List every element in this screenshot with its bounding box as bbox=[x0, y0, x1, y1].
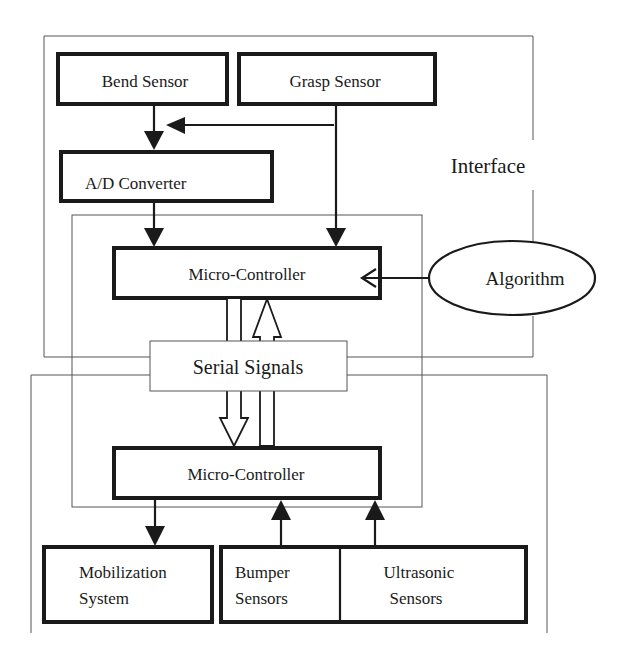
arrowhead-left-icon bbox=[166, 117, 185, 134]
mobilization-label-line1: Mobilization bbox=[79, 563, 167, 582]
bumper-label-line1: Bumper bbox=[235, 563, 290, 582]
sensor-group-box bbox=[221, 547, 526, 622]
grasp-sensor-label: Grasp Sensor bbox=[289, 72, 380, 91]
arrowhead-up-icon bbox=[365, 500, 385, 520]
arrowhead-down-icon bbox=[144, 131, 164, 150]
serial-signals-label: Serial Signals bbox=[193, 356, 304, 379]
ultrasonic-label-line2: Sensors bbox=[390, 589, 443, 608]
arrowhead-up-icon bbox=[271, 500, 291, 520]
mobilization-system-box bbox=[44, 547, 212, 622]
micro-controller-top-label: Micro-Controller bbox=[188, 265, 305, 284]
algorithm-label: Algorithm bbox=[485, 268, 564, 289]
arrowhead-down-icon bbox=[145, 526, 165, 546]
mobilization-label-line2: System bbox=[79, 589, 129, 608]
bend-sensor-label: Bend Sensor bbox=[102, 72, 189, 91]
ad-converter-label: A/D Converter bbox=[85, 174, 187, 193]
interface-label: Interface bbox=[451, 154, 526, 178]
system-block-diagram: Interface Bend Sensor Grasp Sensor A/D C… bbox=[0, 0, 627, 661]
bumper-label-line2: Sensors bbox=[235, 589, 288, 608]
arrowhead-down-icon bbox=[326, 228, 346, 247]
ultrasonic-label-line1: Ultrasonic bbox=[384, 563, 455, 582]
micro-controller-bottom-label: Micro-Controller bbox=[187, 465, 304, 484]
arrowhead-down-icon bbox=[144, 228, 164, 247]
